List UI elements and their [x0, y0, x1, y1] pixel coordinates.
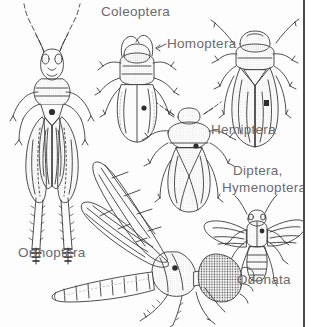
insect-orders-figure: Coleoptera Homoptera Hemiptera Diptera, … [0, 0, 318, 327]
label-diptera: Diptera, [233, 163, 283, 178]
label-hemiptera: Hemiptera [211, 122, 276, 137]
label-odonata: Odonata [237, 272, 291, 287]
label-hymenoptera: Hymenoptera [222, 180, 305, 195]
label-orthoptera: Orthoptera [18, 245, 86, 260]
label-coleoptera: Coleoptera [101, 4, 170, 19]
page-right-margin [305, 0, 318, 327]
illustration-plate: Coleoptera Homoptera Hemiptera Diptera, … [0, 0, 305, 327]
label-homoptera: Homoptera [167, 36, 236, 51]
